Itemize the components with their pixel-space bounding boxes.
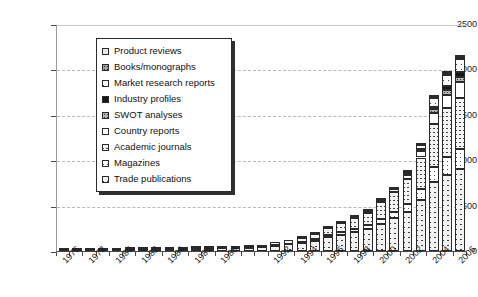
bar-segment [376,219,386,224]
x-axis-tick-mark [162,252,163,256]
legend-label: Trade publications [114,174,191,184]
bar [59,24,69,251]
bar-segment [297,238,307,242]
bar-segment [403,212,413,251]
bar-segment [323,228,333,236]
x-axis-tick-mark [373,252,374,256]
bar-segment [429,113,439,124]
bar [416,24,426,251]
legend-swatch-icon [102,144,109,151]
bar-segment [389,189,399,192]
bar-segment [416,189,426,200]
bar-segment [297,236,307,238]
bar-segment [442,175,452,251]
bar [350,24,360,251]
legend-swatch-icon [102,176,109,183]
bar-segment [416,145,426,149]
bar-segment [376,224,386,251]
legend-item: Product reviews [102,43,226,59]
bar-segment [389,187,399,189]
x-axis-tick-mark [347,252,348,256]
legend-swatch-icon [102,48,109,55]
bar-segment [403,175,413,179]
bar [429,24,439,251]
legend-item: Industry profiles [102,91,226,107]
bar-segment [429,107,439,110]
bar-segment [376,198,386,200]
legend-label: Books/monographs [114,62,196,72]
bar [297,24,307,251]
bar-segment [389,192,399,212]
x-axis-tick-mark [56,252,57,256]
bar-segment [442,86,452,90]
legend-swatch-icon [102,128,109,135]
bar-segment [455,59,465,72]
bar-segment [389,212,399,218]
bar-segment [403,179,413,204]
bar-segment [191,246,201,248]
x-axis-tick-mark [453,252,454,256]
legend-label: Market research reports [114,78,215,88]
bar-segment [217,246,227,248]
legend-swatch-icon [102,96,109,103]
bar [376,24,386,251]
x-axis-tick-mark [82,252,83,256]
bar-segment [363,213,373,226]
bar-segment [442,71,452,73]
bar-segment [416,143,426,145]
bar-segment [429,98,439,106]
bar [72,24,82,251]
bar-segment [416,158,426,190]
legend-item: Magazines [102,155,226,171]
bar [442,24,452,251]
legend-item: Books/monographs [102,59,226,75]
legend-item: Trade publications [102,171,226,187]
legend-item: Country reports [102,123,226,139]
bar-segment [257,245,267,247]
bar [270,24,280,251]
bar-segment [244,245,254,247]
bar-segment [403,172,413,174]
x-axis-tick-mark [135,252,136,256]
x-axis-tick-mark [426,252,427,256]
bar-segment [138,247,148,249]
bar-segment [455,55,465,57]
bar-segment [455,98,465,150]
bar-segment [376,202,386,218]
bar [85,24,95,251]
legend-item: SWOT analyses [102,107,226,123]
bar-segment [429,109,439,113]
bar-segment [442,157,452,175]
bar-segment [270,242,280,245]
bar-segment [416,151,426,158]
x-axis-tick-mark [294,252,295,256]
bar-segment [310,232,320,234]
bar [284,24,294,251]
legend-label: SWOT analyses [114,110,182,120]
bar-segment [323,226,333,228]
x-axis-tick-mark [241,252,242,256]
legend-swatch-icon [102,112,109,119]
bar-segment [350,218,360,229]
bar-segment [350,229,360,232]
bar-segment [442,90,452,95]
bar-segment [363,209,373,211]
x-axis-tick-mark [188,252,189,256]
bar [455,24,465,251]
chart-legend: Product reviewsBooks/monographsMarket re… [96,38,232,192]
legend-label: Product reviews [114,46,182,56]
bar [257,24,267,251]
bar [336,24,346,251]
legend-item: Market research reports [102,75,226,91]
bar-segment [442,73,452,75]
legend-swatch-icon [102,80,109,87]
bar-segment [376,200,386,202]
bar-segment [403,170,413,172]
legend-label: Industry profiles [114,94,181,104]
bar-segment [363,225,373,229]
bar [389,24,399,251]
bar-segment [257,247,267,251]
bar [244,24,254,251]
legend-swatch-icon [102,64,109,71]
